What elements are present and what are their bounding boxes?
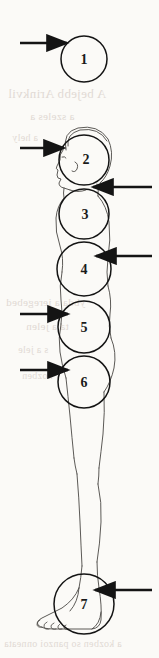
circle-label-5: 5 [81, 320, 88, 335]
circle-label-3: 3 [82, 207, 89, 222]
body-outline-group [37, 127, 115, 629]
eye-mark [62, 157, 66, 158]
circle-label-2: 2 [83, 152, 90, 167]
diagram-page: A bejebb Arinkvila szeles aa helyybda a … [0, 0, 159, 658]
knee-back [98, 468, 99, 484]
figure-proportion-diagram: 1 2 3 4 5 6 7 [0, 0, 159, 658]
thigh-front [66, 378, 74, 458]
circle-label-6: 6 [81, 375, 88, 390]
face-profile [56, 150, 70, 190]
circle-number-labels: 1 2 3 4 5 6 7 [81, 52, 90, 612]
foot-outline [38, 588, 102, 629]
circle-label-7: 7 [81, 597, 88, 612]
circle-label-1: 1 [81, 52, 88, 67]
knee-front [74, 458, 77, 474]
calf-back [97, 484, 101, 562]
heel-curve [92, 612, 101, 629]
ankle-front [79, 566, 82, 588]
toe-3 [51, 623, 56, 629]
ankle-back [97, 562, 99, 588]
neck-front [64, 188, 65, 198]
circle-label-4: 4 [81, 262, 88, 277]
toes-group [37, 620, 68, 629]
ear-mark [72, 162, 78, 172]
leader-arrows-group [20, 43, 152, 590]
shin-front [77, 474, 82, 566]
